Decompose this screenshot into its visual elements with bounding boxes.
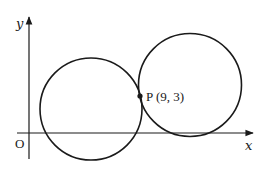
diagram: P (9, 3) y x O [0,0,268,171]
point-p-label: P (9, 3) [146,89,184,104]
point-p-marker [137,93,142,98]
x-axis-label: x [245,138,253,153]
y-axis-label: y [15,16,24,31]
origin-label: O [15,136,24,151]
right-circle [139,34,242,137]
left-circle [40,58,142,160]
